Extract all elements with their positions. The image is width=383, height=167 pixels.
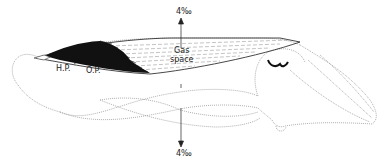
eye — [268, 60, 288, 66]
hp-label: H.P. — [56, 65, 71, 73]
diagram-canvas: 4‰ 4‰ Gas space H.P. O.P. — [0, 0, 383, 167]
top-pressure-label: 4‰ — [176, 8, 192, 16]
cuttlebone — [34, 38, 300, 74]
gas-space-label: Gas space — [170, 46, 193, 64]
op-label: O.P. — [86, 67, 101, 75]
pressure-arrows — [179, 18, 184, 147]
bottom-pressure-label: 4‰ — [176, 150, 192, 158]
cuttlefish-diagram — [0, 0, 383, 167]
